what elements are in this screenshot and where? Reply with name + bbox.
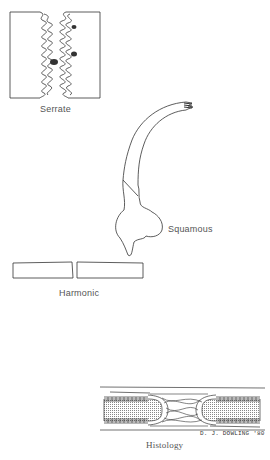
signature: D. J. DOWLING '80 xyxy=(200,430,265,437)
histology-label: Histology xyxy=(146,440,183,450)
histology-figure: D. J. DOWLING '80 Histology xyxy=(90,370,270,460)
harmonic-figure: Harmonic xyxy=(0,250,160,310)
harmonic-label: Harmonic xyxy=(59,288,99,298)
squamous-label: Squamous xyxy=(168,224,213,234)
serrate-label: Serrate xyxy=(40,104,71,114)
harmonic-drawing xyxy=(0,250,160,290)
